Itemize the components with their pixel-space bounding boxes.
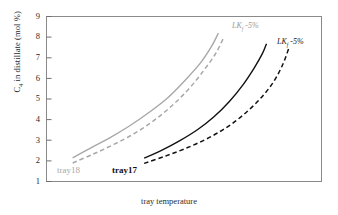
data-curves: [73, 33, 289, 163]
annotation-gray-base: LK: [232, 21, 242, 30]
annotation-gray-tail: -5%: [243, 21, 258, 30]
curve-tray17-dashed: [144, 47, 289, 163]
annotation-black-tail: -5%: [288, 37, 303, 46]
plot-area: [0, 0, 338, 215]
series-label-tray18: tray18: [57, 166, 80, 175]
series-label-tray17: tray17: [112, 166, 137, 175]
curve-tray17-solid: [144, 44, 266, 158]
annotation-tray18-lkf: LKf -5%: [232, 22, 259, 32]
curve-tray18-dashed: [73, 37, 224, 163]
chart-figure: C4 in distillate (mol %) tray temperatur…: [0, 0, 338, 215]
y-tick-marks: [47, 17, 52, 182]
annotation-black-base: LK: [277, 37, 287, 46]
annotation-tray17-lkf: LKf -5%: [277, 38, 304, 48]
curve-tray18-solid: [73, 33, 219, 158]
